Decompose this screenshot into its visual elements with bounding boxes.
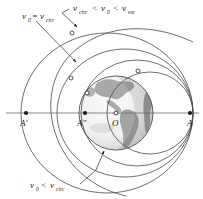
- label-ur-vesc-base: v: [122, 3, 126, 13]
- label-ur-v0-base: v: [101, 3, 105, 13]
- label-upper-left-vcirc-sub: circ: [46, 17, 55, 23]
- orbit-diagram-svg: v 0 = v circ v circ < v 0 < v esc v 0 < …: [0, 0, 203, 199]
- label-lower-v0-base: v: [30, 180, 34, 190]
- label-upper-left-relation: =: [32, 12, 37, 21]
- label-ur-relation-1: <: [92, 4, 97, 13]
- apsis-point-a-prime: [24, 111, 28, 115]
- label-ur-vcirc-base: v: [73, 3, 77, 13]
- label-lower-vcirc-base: v: [50, 180, 54, 190]
- label-ur-vesc-sub: esc: [128, 9, 136, 15]
- apsis-point-a: [188, 111, 192, 115]
- apsis-point-a-double-prime: [83, 111, 87, 115]
- axis-label-a-double-prime: A″: [76, 118, 86, 128]
- marker-on-ellipse-large: [70, 31, 74, 35]
- center-point-o: [114, 111, 118, 115]
- marker-on-ellipse-medium: [69, 76, 73, 80]
- label-upper-left-v0-base: v: [22, 11, 26, 21]
- ocean-texture: [90, 123, 114, 133]
- marker-on-ellipse-suborbital: [136, 69, 140, 73]
- label-lower-v0-sub: 0: [36, 186, 39, 192]
- label-ur-relation-2: <: [113, 4, 118, 13]
- label-upper-left-v0-sub: 0: [28, 17, 31, 23]
- label-upper-left-vcirc-base: v: [40, 11, 44, 21]
- label-ur-vcirc-sub: circ: [79, 9, 88, 15]
- label-ur-v0-sub: 0: [107, 9, 110, 15]
- figure-container: v 0 = v circ v circ < v 0 < v esc v 0 < …: [0, 0, 203, 199]
- label-lower-vcirc-sub: circ: [56, 186, 65, 192]
- axis-label-a-prime: A′: [19, 118, 28, 128]
- axis-label-o: O: [112, 118, 119, 128]
- axis-label-a: A: [186, 118, 193, 128]
- label-lower-relation: <: [41, 181, 46, 190]
- marker-on-circular-orbit: [85, 91, 89, 95]
